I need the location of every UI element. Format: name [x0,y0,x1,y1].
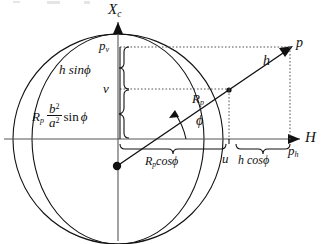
label-h-sin-phi: h sinϕ [59,63,91,76]
label-point-ph: ph [288,144,299,159]
label-h-vector: h [263,54,270,68]
top-cropped-ink-1 [13,1,20,3]
label-rp-cos-phi: Rpcosϕ [145,155,178,169]
label-Rp: Rp [192,92,204,107]
label-u: u [222,152,229,165]
label-point-p: p [296,36,303,50]
label-angle-phi: ϕ [196,114,203,128]
h-vector-arrowhead [279,46,293,57]
label-point-pv: pv [99,39,109,54]
label-v: v [103,82,109,95]
label-axis-H: H [305,130,316,145]
label-rp-b2a2-sin-phi: Rpb2a2sinϕ [32,102,87,130]
xc-axis-arrowhead [113,22,123,34]
top-cropped-ink-3 [84,1,90,4]
angle-phi-arrowhead [169,110,179,118]
label-h-cos-phi: h cosϕ [238,154,269,166]
label-axis-Xc: Xc [108,2,121,19]
origin-dot [113,162,121,170]
top-cropped-ink-2 [47,1,60,4]
